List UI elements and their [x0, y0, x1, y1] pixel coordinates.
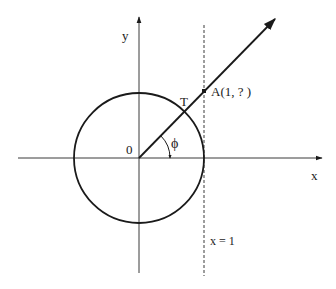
angle-phi-label: ϕ — [171, 136, 178, 151]
ray-from-origin — [139, 19, 275, 158]
vertical-line-label: x = 1 — [210, 234, 235, 248]
point-a-label: A(1, ? ) — [211, 84, 251, 99]
diagram: y x 0 T A(1, ? ) ϕ x = 1 — [0, 0, 336, 289]
y-axis-label: y — [122, 28, 129, 43]
x-axis-label: x — [311, 168, 318, 183]
angle-arc — [161, 136, 170, 158]
point-a-marker — [202, 89, 206, 93]
tangent-point-label: T — [180, 94, 188, 109]
origin-label: 0 — [126, 142, 133, 157]
